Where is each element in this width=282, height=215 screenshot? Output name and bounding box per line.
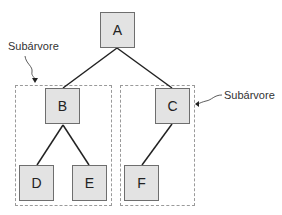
right-label-arrow xyxy=(198,95,222,104)
node-c: C xyxy=(155,88,190,124)
edge-b-e xyxy=(63,125,89,165)
node-a: A xyxy=(100,12,135,48)
edge-b-d xyxy=(37,125,63,165)
left-arrowhead-icon xyxy=(32,78,38,83)
right-arrowhead-icon xyxy=(195,101,199,107)
edge-a-b xyxy=(63,48,117,88)
left-label-arrow xyxy=(25,56,35,80)
edge-a-c xyxy=(117,48,172,88)
node-d: D xyxy=(19,165,54,201)
edge-c-f xyxy=(142,124,172,165)
node-b: B xyxy=(45,88,80,124)
node-e: E xyxy=(72,165,107,201)
subtree-right-label: Subárvore xyxy=(224,89,275,101)
subtree-left-label: Subárvore xyxy=(8,40,59,52)
node-f: F xyxy=(124,165,159,201)
